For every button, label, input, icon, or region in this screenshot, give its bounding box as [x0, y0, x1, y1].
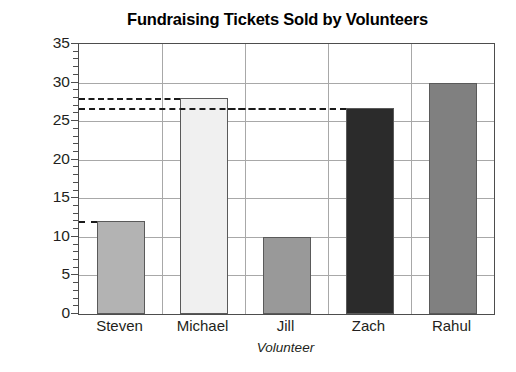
y-axis-minor-tick	[73, 136, 78, 137]
y-axis-tick-label: 30	[26, 74, 70, 89]
plot-area	[78, 43, 495, 315]
y-axis-minor-tick	[73, 251, 78, 252]
y-axis-major-tick	[71, 274, 78, 275]
bar	[263, 237, 311, 314]
x-axis-tick-label: Zach	[327, 317, 410, 334]
y-axis-minor-tick	[73, 305, 78, 306]
x-axis-tick-label: Jill	[244, 317, 327, 334]
y-axis-minor-tick	[73, 282, 78, 283]
gridline-vertical	[328, 44, 329, 314]
y-axis-major-tick	[71, 197, 78, 198]
y-axis-minor-tick	[73, 190, 78, 191]
gridline-vertical	[245, 44, 246, 314]
y-axis-major-tick	[71, 82, 78, 83]
y-axis-minor-tick	[73, 290, 78, 291]
y-axis-minor-tick	[73, 66, 78, 67]
y-axis-tick-label: 35	[26, 35, 70, 50]
y-axis-minor-tick	[73, 259, 78, 260]
y-axis-minor-tick	[73, 151, 78, 152]
y-axis-major-tick	[71, 313, 78, 314]
y-axis-minor-tick	[73, 174, 78, 175]
y-axis-minor-tick	[73, 128, 78, 129]
y-axis-minor-tick	[73, 58, 78, 59]
chart-title: Fundraising Tickets Sold by Volunteers	[60, 10, 495, 29]
y-axis-minor-tick	[73, 105, 78, 106]
y-axis-tick-label: 20	[26, 151, 70, 166]
y-axis-major-tick	[71, 236, 78, 237]
y-axis-tick-label: 15	[26, 189, 70, 204]
y-axis-minor-tick	[73, 97, 78, 98]
y-axis-minor-tick	[73, 213, 78, 214]
y-axis-tick-label: 5	[26, 266, 70, 281]
y-axis-minor-tick	[73, 51, 78, 52]
x-axis-title: Volunteer	[78, 340, 493, 355]
x-axis-tick-label: Rahul	[410, 317, 493, 334]
y-axis-minor-tick	[73, 182, 78, 183]
y-axis-minor-tick	[73, 228, 78, 229]
y-axis-major-tick	[71, 159, 78, 160]
x-axis-tick-label: Steven	[78, 317, 161, 334]
annotation-dashed-line	[79, 221, 97, 223]
gridline-vertical	[162, 44, 163, 314]
bar	[429, 83, 477, 314]
x-axis-tick-label: Michael	[161, 317, 244, 334]
y-axis-tick-label: 0	[26, 305, 70, 320]
bar	[97, 221, 145, 314]
bar	[180, 98, 228, 314]
gridline-vertical	[411, 44, 412, 314]
y-axis-tick-label: 25	[26, 112, 70, 127]
y-axis-minor-tick	[73, 244, 78, 245]
y-axis-minor-tick	[73, 89, 78, 90]
y-axis-minor-tick	[73, 298, 78, 299]
y-axis-minor-tick	[73, 205, 78, 206]
bar	[346, 108, 394, 314]
annotation-dashed-line	[228, 108, 346, 110]
y-axis-minor-tick	[73, 112, 78, 113]
annotation-dashed-line	[79, 98, 180, 100]
bar-chart: Fundraising Tickets Sold by Volunteers N…	[0, 0, 516, 372]
y-axis-tick-label: 10	[26, 228, 70, 243]
y-axis-minor-tick	[73, 143, 78, 144]
y-axis-major-tick	[71, 120, 78, 121]
y-axis-minor-tick	[73, 220, 78, 221]
y-axis-minor-tick	[73, 74, 78, 75]
y-axis-major-tick	[71, 43, 78, 44]
y-axis-minor-tick	[73, 267, 78, 268]
y-axis-minor-tick	[73, 166, 78, 167]
